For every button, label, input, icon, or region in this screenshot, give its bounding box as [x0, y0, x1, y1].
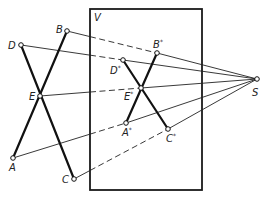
point-B*	[155, 51, 160, 56]
ray-A-outside	[13, 134, 90, 158]
label-A: A	[8, 162, 16, 173]
point-D*	[121, 58, 126, 63]
ray-E-to-center	[141, 79, 257, 88]
label-E*: E*	[124, 90, 133, 102]
point-C*	[166, 127, 171, 132]
ray-D-to-center	[123, 60, 257, 79]
label-C*: C*	[166, 132, 176, 144]
projection-plane-frame	[90, 9, 202, 190]
ray-A-hidden	[90, 123, 126, 134]
ray-D-hidden	[90, 55, 123, 60]
ray-C-hidden	[90, 129, 168, 170]
ray-E-outside	[40, 92, 90, 96]
label-A*: A*	[121, 126, 132, 138]
ray-B-outside	[67, 31, 90, 37]
label-S: S	[252, 87, 259, 98]
point-S	[255, 77, 260, 82]
point-D	[19, 43, 24, 48]
point-E*	[139, 86, 144, 91]
point-E	[38, 94, 43, 99]
label-B*: B*	[153, 38, 163, 50]
ray-B-to-center	[157, 53, 257, 79]
central-projection-diagram: V BDEACB*D*E*A*C*S	[0, 0, 268, 205]
label-D: D	[8, 40, 16, 51]
label-D*: D*	[110, 64, 121, 76]
ray-D-outside	[21, 45, 90, 55]
label-B: B	[56, 24, 63, 35]
label-C: C	[62, 174, 69, 185]
point-C	[72, 177, 77, 182]
ray-A-to-center	[126, 79, 257, 123]
ray-E-hidden	[90, 88, 141, 92]
point-A*	[124, 121, 129, 126]
label-E: E	[29, 91, 36, 102]
point-A	[11, 156, 16, 161]
segment-D-C	[21, 45, 74, 179]
ray-B-hidden	[90, 37, 157, 53]
point-B	[65, 29, 70, 34]
plane-label: V	[94, 12, 102, 23]
